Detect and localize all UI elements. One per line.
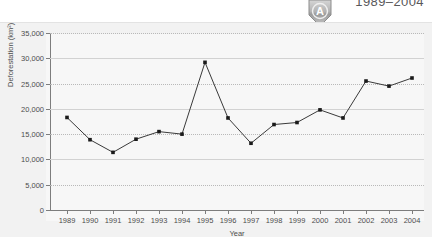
x-tick-label: 2004 (404, 216, 421, 225)
x-tick-label: 1991 (105, 216, 122, 225)
header-band: 1989–2004 A (0, 0, 432, 22)
y-tick-label: 0 (40, 206, 44, 215)
x-tick-label: 2000 (312, 216, 329, 225)
x-tick-label: 1998 (266, 216, 283, 225)
x-tick-label: 1996 (220, 216, 237, 225)
data-point-marker (249, 141, 253, 145)
y-tick-label: 5,000 (25, 180, 44, 189)
x-tick-label: 2003 (381, 216, 398, 225)
data-point-marker (226, 116, 230, 120)
y-tick-label: 15,000 (21, 130, 44, 139)
data-point-marker (341, 116, 345, 120)
series-polyline (67, 62, 412, 152)
page-title: 1989–2004 (355, 0, 424, 9)
x-tick-label: 1999 (289, 216, 306, 225)
y-tick-label: 20,000 (21, 104, 44, 113)
data-point-marker (272, 123, 276, 127)
y-tick-label: 10,000 (21, 155, 44, 164)
y-axis-label: Deforestation (km²) (6, 23, 15, 87)
y-tick-label: 30,000 (21, 54, 44, 63)
data-point-marker (157, 130, 161, 134)
x-tick-label: 1993 (151, 216, 168, 225)
data-point-marker (111, 151, 115, 155)
x-tick-label: 1989 (59, 216, 76, 225)
data-point-marker (134, 137, 138, 141)
chart-screenshot: 1989–2004 A Deforestation (km²) (0, 0, 432, 237)
data-point-marker (180, 132, 184, 136)
data-point-marker (295, 121, 299, 125)
data-point-marker (88, 138, 92, 142)
x-tick-label: 1997 (243, 216, 260, 225)
x-tick-label: 2002 (358, 216, 375, 225)
plot-area: 05,00010,00015,00020,00025,00030,00035,0… (50, 33, 424, 210)
x-tick-label: 1992 (128, 216, 145, 225)
data-point-marker (65, 116, 69, 120)
chart-panel: Deforestation (km²) 05,00010,00015,00020… (0, 22, 432, 237)
data-point-marker (364, 79, 368, 83)
data-point-marker (203, 61, 207, 65)
x-tick-label: 1990 (82, 216, 99, 225)
x-tick-label: 1995 (197, 216, 214, 225)
data-point-marker (387, 84, 391, 88)
data-point-marker (410, 76, 414, 80)
badge-letter: A (316, 5, 324, 17)
x-axis-label: Year (50, 229, 424, 237)
data-series-line (50, 33, 424, 211)
x-tick-label: 1994 (174, 216, 191, 225)
x-tick-label: 2001 (335, 216, 352, 225)
y-tick-label: 35,000 (21, 29, 44, 38)
data-point-marker (318, 108, 322, 112)
y-tick-label: 25,000 (21, 79, 44, 88)
